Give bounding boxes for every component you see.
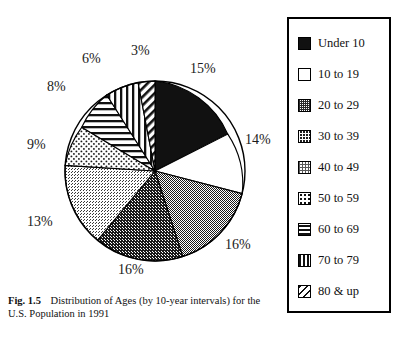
legend-item[interactable]: 70 to 79 <box>298 245 389 276</box>
legend-swatch-sparse-dots <box>298 192 311 205</box>
figure-page: 15%14%16%16%13%9%8%6%3% Fig. 1.5 Distrib… <box>0 0 399 346</box>
legend-item[interactable]: 30 to 39 <box>298 121 389 152</box>
legend-swatch-light-gray-dots <box>298 161 311 174</box>
legend-swatch-vertical-lines <box>298 254 311 267</box>
legend-swatch-medium-gray-dots <box>298 99 311 112</box>
legend-item[interactable]: 10 to 19 <box>298 59 389 90</box>
legend-swatch-dark-gray-dots <box>298 130 311 143</box>
legend-item[interactable]: 20 to 29 <box>298 90 389 121</box>
figure-caption-text: Distribution of Ages (by 10-year interva… <box>8 295 260 319</box>
legend-item-label: 40 to 49 <box>318 161 359 174</box>
legend-item[interactable]: Under 10 <box>298 28 389 59</box>
legend-item[interactable]: 60 to 69 <box>298 214 389 245</box>
legend-swatch-horizontal-lines <box>298 223 311 236</box>
pie-percent-label: 9% <box>27 138 46 152</box>
legend-item[interactable]: 80 & up <box>298 276 389 307</box>
legend-item-label: 80 & up <box>318 285 359 298</box>
pie-percent-label: 13% <box>27 215 53 229</box>
legend-item-label: 20 to 29 <box>318 99 359 112</box>
pie-chart: 15%14%16%16%13%9%8%6%3% <box>0 0 280 290</box>
pie-percent-label: 14% <box>245 133 271 147</box>
legend-item-label: 70 to 79 <box>318 254 359 267</box>
pie-percent-label: 8% <box>47 80 66 94</box>
legend-item-label: 60 to 69 <box>318 223 359 236</box>
legend-swatch-diagonal-lines <box>298 285 311 298</box>
legend-swatch-white <box>298 68 311 81</box>
figure-caption: Fig. 1.5 Distribution of Ages (by 10-yea… <box>8 295 280 320</box>
legend-item-label: 50 to 59 <box>318 192 359 205</box>
pie-percent-label: 15% <box>190 62 216 76</box>
legend-item[interactable]: 40 to 49 <box>298 152 389 183</box>
legend-item-label: 10 to 19 <box>318 68 359 81</box>
pie-percent-label: 16% <box>118 263 144 277</box>
legend-item-label: 30 to 39 <box>318 130 359 143</box>
pie-percent-label: 16% <box>225 238 251 252</box>
pie-percent-label: 6% <box>82 52 101 66</box>
pie-percent-label: 3% <box>131 44 150 58</box>
legend-item-label: Under 10 <box>318 37 365 50</box>
legend-box: Under 1010 to 1920 to 2930 to 3940 to 49… <box>287 17 391 313</box>
figure-number: Fig. 1.5 <box>8 295 41 306</box>
legend-swatch-solid-black <box>298 37 311 50</box>
legend-item[interactable]: 50 to 59 <box>298 183 389 214</box>
